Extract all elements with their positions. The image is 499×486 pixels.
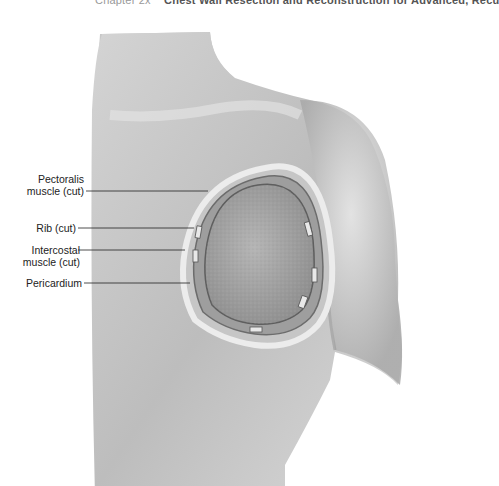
label-line: muscle (cut) [10, 256, 80, 268]
label-pericardium: Pericardium [10, 277, 82, 289]
label-pectoralis: Pectoralis muscle (cut) [10, 173, 84, 197]
label-rib: Rib (cut) [10, 222, 76, 234]
label-line: Rib (cut) [10, 222, 76, 234]
label-line: Pericardium [10, 277, 82, 289]
label-line: Intercostal [10, 244, 80, 256]
label-line: muscle (cut) [10, 185, 84, 197]
label-intercostal: Intercostal muscle (cut) [10, 244, 80, 268]
label-line: Pectoralis [10, 173, 84, 185]
